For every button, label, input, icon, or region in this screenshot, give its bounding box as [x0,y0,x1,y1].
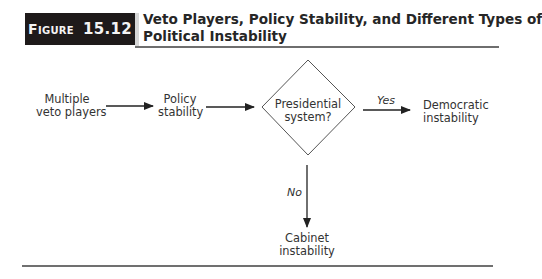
node-multiple-veto-players: Multiple veto players [36,93,98,119]
node-cabinet-instability: Cabinet instability [276,232,338,258]
bottom-rule [22,265,493,267]
edge-label-yes: Yes [377,94,395,107]
node-policy-stability: Policy stability [158,93,202,119]
node-democratic-instability: Democratic instability [423,99,489,125]
node-text-line2: instability [423,112,489,125]
node-text-line2: stability [158,106,202,119]
node-presidential-system: Presidential system? [270,98,346,124]
node-text-line2: instability [276,245,338,258]
node-text-line2: system? [270,111,346,124]
node-text-line2: veto players [36,106,98,119]
edge-label-no: No [287,186,302,199]
